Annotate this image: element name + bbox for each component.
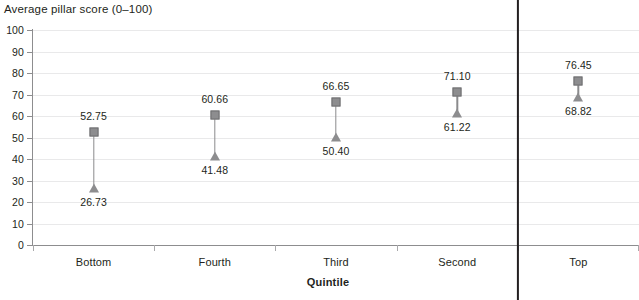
- x-tick-mark-1: [154, 245, 155, 251]
- y-tick-label-wrap-40: 40: [0, 153, 24, 165]
- value-label-lower-top: 68.82: [565, 105, 592, 117]
- triangle-marker-second[interactable]: [452, 109, 462, 118]
- triangle-marker-fourth[interactable]: [210, 151, 220, 160]
- gridline-30: [33, 181, 639, 182]
- y-tick-mark-90: [27, 52, 33, 53]
- x-category-label-bottom: Bottom: [76, 256, 111, 268]
- y-tick-label-10: 10: [0, 218, 24, 230]
- y-tick-label-wrap-30: 30: [0, 175, 24, 187]
- x-category-label-fourth: Fourth: [199, 256, 231, 268]
- gridline-70: [33, 95, 639, 96]
- gridline-90: [33, 52, 639, 53]
- y-tick-mark-70: [27, 95, 33, 96]
- y-tick-label-wrap-50: 50: [0, 132, 24, 144]
- x-axis-title: Quintile: [307, 276, 350, 288]
- chart-title: Average pillar score (0–100): [4, 3, 152, 15]
- triangle-marker-third[interactable]: [331, 132, 341, 141]
- range-connector-fourth: [214, 115, 215, 156]
- x-tick-mark-2: [275, 245, 276, 251]
- square-marker-second[interactable]: [453, 88, 462, 97]
- square-marker-fourth[interactable]: [210, 110, 219, 119]
- y-tick-label-wrap-70: 70: [0, 89, 24, 101]
- y-tick-label-40: 40: [0, 153, 24, 165]
- y-tick-label-wrap-90: 90: [0, 46, 24, 58]
- y-tick-label-90: 90: [0, 46, 24, 58]
- y-tick-label-50: 50: [0, 132, 24, 144]
- y-tick-mark-10: [27, 224, 33, 225]
- y-tick-label-30: 30: [0, 175, 24, 187]
- y-tick-mark-60: [27, 116, 33, 117]
- x-category-label-top: Top: [569, 256, 587, 268]
- y-tick-label-wrap-10: 10: [0, 218, 24, 230]
- y-tick-mark-100: [27, 30, 33, 31]
- value-label-lower-third: 50.40: [323, 145, 350, 157]
- x-category-label-second: Second: [438, 256, 476, 268]
- y-tick-label-80: 80: [0, 67, 24, 79]
- y-tick-label-wrap-80: 80: [0, 67, 24, 79]
- y-tick-label-60: 60: [0, 110, 24, 122]
- value-label-upper-top: 76.45: [565, 59, 592, 71]
- x-category-label-third: Third: [323, 256, 349, 268]
- y-tick-mark-30: [27, 181, 33, 182]
- y-tick-mark-20: [27, 202, 33, 203]
- y-tick-label-wrap-0: 0: [0, 239, 24, 251]
- x-tick-mark-3: [397, 245, 398, 251]
- square-marker-top[interactable]: [574, 76, 583, 85]
- y-tick-label-70: 70: [0, 89, 24, 101]
- square-marker-bottom[interactable]: [89, 127, 98, 136]
- gridline-10: [33, 224, 639, 225]
- value-label-upper-third: 66.65: [323, 80, 350, 92]
- value-label-upper-bottom: 52.75: [80, 110, 107, 122]
- y-tick-label-wrap-100: 100: [0, 24, 24, 36]
- gridline-40: [33, 159, 639, 160]
- triangle-marker-top[interactable]: [573, 93, 583, 102]
- gridline-100: [33, 30, 639, 31]
- range-connector-bottom: [93, 132, 94, 188]
- y-tick-label-wrap-20: 20: [0, 196, 24, 208]
- value-label-upper-second: 71.10: [444, 70, 471, 82]
- y-tick-label-100: 100: [0, 24, 24, 36]
- x-tick-mark-0: [33, 245, 34, 251]
- chart-root: Average pillar score (0–100) 01020304050…: [0, 0, 639, 300]
- y-tick-label-20: 20: [0, 196, 24, 208]
- gridline-80: [33, 73, 639, 74]
- triangle-marker-bottom[interactable]: [89, 183, 99, 192]
- gridline-0: [33, 245, 639, 246]
- square-marker-third[interactable]: [332, 97, 341, 106]
- vertical-divider-line: [517, 0, 519, 300]
- y-tick-mark-40: [27, 159, 33, 160]
- y-tick-mark-80: [27, 73, 33, 74]
- value-label-lower-bottom: 26.73: [80, 196, 107, 208]
- y-tick-mark-50: [27, 138, 33, 139]
- gridline-20: [33, 202, 639, 203]
- value-label-upper-fourth: 60.66: [201, 93, 228, 105]
- value-label-lower-fourth: 41.48: [201, 164, 228, 176]
- value-label-lower-second: 61.22: [444, 121, 471, 133]
- y-tick-label-0: 0: [0, 239, 24, 251]
- y-tick-label-wrap-60: 60: [0, 110, 24, 122]
